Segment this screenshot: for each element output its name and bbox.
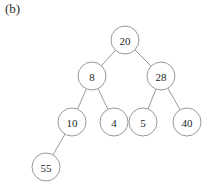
figure-container: (b) 2082810454055 [0, 0, 212, 196]
tree-node-55[interactable]: 55 [32, 153, 60, 181]
tree-node-10[interactable]: 10 [58, 108, 86, 136]
tree-node-label-40: 40 [182, 117, 194, 129]
tree-node-8[interactable]: 8 [78, 62, 106, 90]
tree-edge-28-5 [148, 89, 156, 109]
binary-tree-diagram: 2082810454055 [0, 0, 212, 196]
tree-edge-10-55 [53, 134, 65, 155]
tree-node-40[interactable]: 40 [173, 108, 201, 136]
tree-edge-28-40 [168, 88, 180, 110]
tree-node-label-10: 10 [67, 117, 79, 129]
tree-node-label-28: 28 [156, 71, 168, 83]
tree-node-4[interactable]: 4 [100, 108, 128, 136]
tree-edge-20-28 [135, 50, 151, 66]
tree-edge-8-10 [78, 89, 87, 109]
tree-node-label-8: 8 [89, 71, 95, 83]
tree-nodes-group: 2082810454055 [32, 26, 201, 181]
tree-node-20[interactable]: 20 [111, 26, 139, 54]
tree-edge-20-8 [101, 50, 115, 65]
tree-node-5[interactable]: 5 [129, 108, 157, 136]
tree-node-28[interactable]: 28 [147, 62, 175, 90]
tree-node-label-5: 5 [140, 117, 146, 129]
tree-edge-8-4 [98, 89, 108, 110]
tree-node-label-20: 20 [120, 35, 132, 47]
tree-node-label-4: 4 [111, 117, 117, 129]
tree-node-label-55: 55 [41, 162, 53, 174]
